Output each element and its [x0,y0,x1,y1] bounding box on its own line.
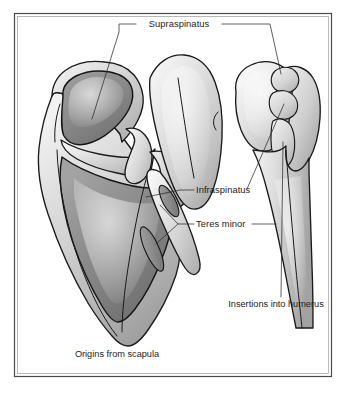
label-insertions-into-humerus: Insertions into humerus [228,299,324,309]
facet-superior-supraspinatus [271,67,299,93]
label-origins-from-scapula: Origins from scapula [75,349,160,359]
anatomical-diagram: Supraspinatus Infraspinatus Teres minor … [0,0,345,394]
label-teres-minor: Teres minor [196,218,246,229]
label-infraspinatus: Infraspinatus [196,184,251,195]
label-supraspinatus: Supraspinatus [149,18,210,29]
figure-container: Supraspinatus Infraspinatus Teres minor … [0,0,345,394]
